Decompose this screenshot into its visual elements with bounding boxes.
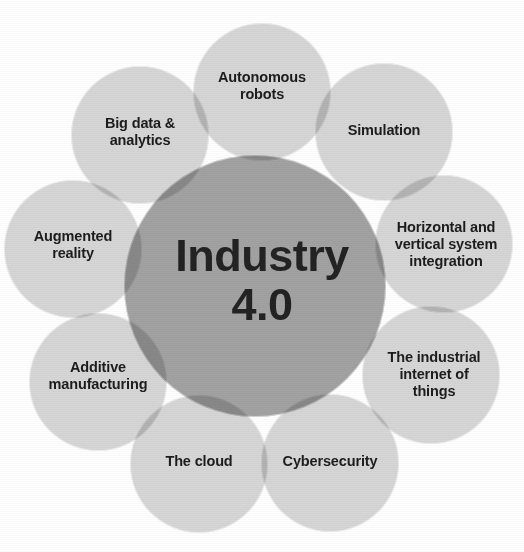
- petal-label-big-data-analytics: Big data & analytics: [65, 115, 215, 149]
- petal-label-autonomous-robots: Autonomous robots: [187, 69, 337, 103]
- petal-label-industrial-internet-of-things: The industrial internet of things: [359, 349, 509, 400]
- petal-label-horizontal-vertical-system-integration: Horizontal and vertical system integrati…: [371, 219, 521, 270]
- labels-layer: Industry 4.0 Autonomous robots Simulatio…: [0, 0, 524, 552]
- core-label-industry-40: Industry 4.0: [0, 232, 524, 329]
- petal-label-the-cloud: The cloud: [124, 453, 274, 470]
- industry-40-petal-diagram: Industry 4.0 Autonomous robots Simulatio…: [0, 0, 524, 552]
- petal-label-simulation: Simulation: [309, 122, 459, 139]
- petal-label-cybersecurity: Cybersecurity: [255, 453, 405, 470]
- petal-label-augmented-reality: Augmented reality: [0, 228, 148, 262]
- petal-label-additive-manufacturing: Additive manufacturing: [23, 359, 173, 393]
